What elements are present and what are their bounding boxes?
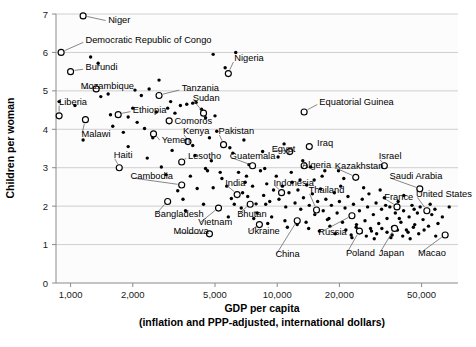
data-point (143, 127, 146, 130)
data-point (266, 222, 269, 225)
point-label-tanzania: Tanzania (182, 83, 220, 93)
y-tick-label-0: 0 (43, 278, 48, 289)
data-point (362, 186, 365, 189)
point-label-thailand: Thailand (309, 185, 345, 195)
chart-canvas: 01234567 1,0002,0005,00010,00020,00050,0… (0, 0, 476, 347)
data-point (169, 100, 172, 103)
data-point (276, 155, 279, 158)
data-point (385, 231, 388, 234)
data-point (320, 174, 323, 177)
data-point (380, 208, 383, 211)
data-point (346, 195, 349, 198)
data-point (296, 188, 299, 191)
data-point (418, 205, 421, 208)
x-tick-label-2000: 2,000 (121, 289, 145, 300)
labeled-data-point-poland (356, 228, 362, 234)
x-tick-label-1000: 1,000 (59, 289, 83, 300)
y-axis-title: Children per woman (4, 98, 16, 199)
labeled-data-point-ethiopia (115, 112, 121, 118)
data-point (268, 200, 271, 203)
data-point (385, 217, 388, 220)
labeled-data-point-pakistan (221, 142, 227, 148)
labeled-data-point-united-states (424, 208, 430, 214)
labeled-data-point-indonesia (279, 190, 285, 196)
data-point (408, 237, 411, 240)
point-label-liberia: Liberia (59, 97, 88, 107)
data-point (211, 186, 214, 189)
labeled-data-point-nigeria (225, 71, 231, 77)
data-point (293, 201, 296, 204)
data-point (322, 209, 325, 212)
data-point (277, 198, 280, 201)
labeled-data-point-niger (80, 13, 86, 19)
data-point (126, 115, 129, 118)
data-point (230, 197, 233, 200)
data-point (99, 95, 102, 98)
labeled-data-point-comoros (166, 118, 172, 124)
data-point (430, 213, 433, 216)
data-point (416, 211, 419, 214)
data-point (157, 78, 160, 81)
data-point (241, 191, 244, 194)
y-tick-label-1: 1 (43, 239, 48, 250)
data-point (213, 114, 216, 117)
data-point (401, 234, 404, 237)
data-point (290, 171, 293, 174)
data-point (433, 208, 436, 211)
labeled-data-point-yemen (151, 131, 157, 137)
data-point (388, 205, 391, 208)
data-point (237, 171, 240, 174)
labeled-data-point-haiti (116, 165, 122, 171)
data-point (436, 222, 439, 225)
data-point (350, 236, 353, 239)
data-point (176, 189, 179, 192)
data-point (399, 221, 402, 224)
point-label-lesotho: Lesotho (188, 151, 221, 161)
point-label-malawi: Malawi (82, 129, 111, 139)
point-label-mozambique: Mozambique (81, 81, 134, 91)
data-point (343, 206, 346, 209)
data-point (398, 217, 401, 220)
point-label-algeria: Algeria (302, 160, 332, 170)
labeled-data-point-japan (392, 225, 398, 231)
data-point (202, 203, 205, 206)
point-label-macao: Macao (418, 248, 446, 258)
point-label-guatemala: Guatemala (230, 151, 276, 161)
data-point (448, 205, 451, 208)
point-label-saudi-arabia: Saudi Arabia (390, 171, 444, 181)
labeled-data-point-bhutan (247, 201, 253, 207)
data-point (365, 234, 368, 237)
point-label-democratic-republic-of-congo: Democratic Republic of Congo (85, 35, 211, 45)
data-point (361, 198, 364, 201)
data-point (287, 191, 290, 194)
data-point (352, 203, 355, 206)
data-point (374, 201, 377, 204)
data-point (342, 177, 345, 180)
data-point (89, 55, 92, 58)
data-point (358, 209, 361, 212)
data-point (146, 156, 149, 159)
labeled-data-point-macao (442, 232, 448, 238)
point-label-israel: Israel (379, 151, 402, 161)
data-point (370, 229, 373, 232)
y-tick-label-6: 6 (43, 47, 48, 58)
data-point (233, 203, 236, 206)
data-point (262, 194, 265, 197)
labeled-data-point-equatorial-guinea (301, 109, 307, 115)
point-label-yemen: Yemen (162, 135, 191, 145)
data-point (191, 144, 194, 147)
data-point (223, 66, 226, 69)
data-point (304, 221, 307, 224)
point-label-russia: Russia (318, 227, 347, 237)
y-tick-label-7: 7 (43, 9, 48, 20)
data-point (270, 215, 273, 218)
labeled-data-point-cambodia (179, 182, 185, 188)
data-point (254, 202, 257, 205)
data-point (228, 146, 231, 149)
labeled-data-point-liberia (56, 113, 62, 119)
data-point (208, 136, 211, 139)
data-point (338, 200, 341, 203)
labeled-data-point-malawi (82, 117, 88, 123)
data-point (195, 187, 198, 190)
data-point (109, 113, 112, 116)
